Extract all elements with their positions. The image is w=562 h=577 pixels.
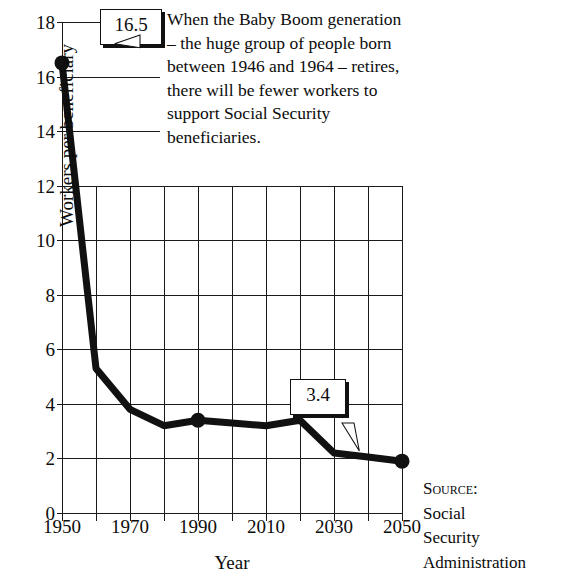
x-tick-label: 1970: [111, 517, 149, 536]
y-tick-label: 4: [46, 394, 56, 413]
y-tick-label: 10: [36, 231, 55, 250]
x-tick-mark: [300, 513, 301, 521]
y-axis-title: Workers per beneficiary: [56, 44, 78, 227]
y-tick-mark: [57, 349, 63, 350]
y-tick-mark: [57, 240, 63, 241]
vertical-gridline: [232, 186, 233, 513]
y-tick-label: 2: [46, 449, 56, 468]
vertical-gridline: [96, 186, 97, 513]
callout-tail: [100, 9, 220, 129]
y-tick-label: 16: [36, 67, 55, 86]
vertical-gridline: [130, 186, 131, 513]
x-tick-label: 1950: [43, 517, 81, 536]
x-tick-mark: [368, 513, 369, 521]
x-tick-mark: [164, 513, 165, 521]
y-tick-label: 14: [36, 122, 55, 141]
y-tick-mark: [57, 295, 63, 296]
source-line-1: Social: [423, 504, 466, 523]
source-line-2: Security: [423, 528, 480, 547]
vertical-gridline: [198, 186, 199, 513]
y-tick-label: 6: [46, 340, 56, 359]
y-tick-label: 18: [36, 13, 55, 32]
x-tick-mark: [232, 513, 233, 521]
x-tick-label: 2010: [247, 517, 285, 536]
vertical-gridline: [266, 186, 267, 513]
source-label: Source:: [423, 479, 478, 498]
y-tick-mark: [57, 404, 63, 405]
source-line-3: Administration: [423, 553, 526, 572]
vertical-gridline: [164, 186, 165, 513]
y-tick-mark: [57, 458, 63, 459]
x-tick-mark: [96, 513, 97, 521]
x-tick-label: 2050: [383, 517, 421, 536]
y-tick-mark: [57, 22, 63, 23]
x-tick-label: 1990: [179, 517, 217, 536]
callout-tail: [290, 379, 410, 499]
cropped-text-fragment: ...: [196, 0, 316, 2]
x-axis-title: Year: [62, 552, 402, 574]
y-tick-label: 12: [36, 176, 55, 195]
x-tick-label: 2030: [315, 517, 353, 536]
source-note: Source: Social Security Administration: [423, 477, 558, 575]
y-tick-label: 8: [46, 285, 56, 304]
